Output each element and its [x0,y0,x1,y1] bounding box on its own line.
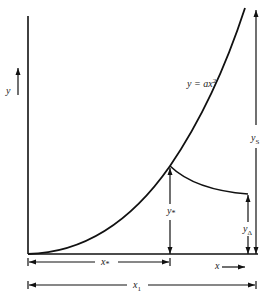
y-delta-label: yΔ [242,223,252,237]
diagram-canvas: y y = ax2 yS y* yΔ x* x x1 [0,0,264,300]
parabola-curve [28,8,245,254]
x-star-label: x* [100,256,109,269]
y-axis-label: y [5,85,11,96]
equation-label: y = ax2 [186,77,217,89]
x1-label: x1 [132,279,141,293]
y-s-label: yS [250,132,259,146]
decay-curve [170,166,248,194]
x-axis-label: x [214,260,220,271]
y-star-label: y* [166,205,175,218]
